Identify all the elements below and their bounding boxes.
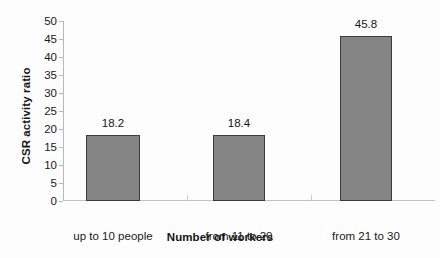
y-tick-mark: [59, 201, 63, 202]
bar-from-21-to-30[interactable]: [340, 36, 392, 201]
y-tick-mark: [59, 93, 63, 94]
y-tick-mark: [59, 75, 63, 76]
y-tick-mark: [59, 183, 63, 184]
y-tick-label: 40: [44, 51, 57, 63]
bar-from-11-to-20[interactable]: [213, 135, 265, 201]
y-tick-label: 45: [44, 33, 57, 45]
y-axis-line: [63, 21, 64, 201]
y-tick-mark: [59, 39, 63, 40]
bar-value-label-1: 18.4: [228, 117, 250, 129]
bar-up-to-10-people[interactable]: [86, 135, 140, 201]
y-tick-label: 35: [44, 69, 57, 81]
y-tick-label: 20: [44, 123, 57, 135]
y-tick-mark: [59, 111, 63, 112]
category-separator: [187, 195, 188, 201]
bar-value-label-2: 45.8: [355, 18, 377, 30]
y-tick-label: 50: [44, 15, 57, 27]
y-tick-label: 5: [51, 177, 57, 189]
y-tick-mark: [59, 165, 63, 166]
y-tick-label: 25: [44, 105, 57, 117]
y-tick-label: 10: [44, 159, 57, 171]
category-separator: [311, 195, 312, 201]
plot-area: 50 45 40 35 30 25 20 15: [63, 21, 435, 201]
y-tick-mark: [59, 21, 63, 22]
y-tick-mark: [59, 129, 63, 130]
chart-canvas: CSR activity ratio 50 45 40 35 30 25: [0, 0, 440, 258]
y-axis-title: CSR activity ratio: [20, 31, 36, 201]
y-tick-mark: [59, 147, 63, 148]
y-tick-mark: [59, 57, 63, 58]
x-axis-title: Number of workers: [0, 231, 440, 243]
bar-value-label-0: 18.2: [102, 117, 124, 129]
y-tick-label: 0: [51, 195, 57, 207]
y-tick-label: 30: [44, 87, 57, 99]
y-tick-label: 15: [44, 141, 57, 153]
